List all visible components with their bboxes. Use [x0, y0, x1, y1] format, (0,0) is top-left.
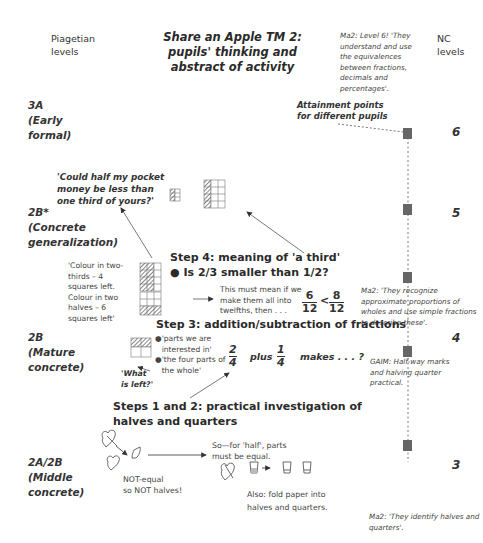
attainment-point [403, 128, 412, 139]
diagram-graphics [0, 0, 483, 543]
cup-icon-half-b [303, 462, 311, 473]
arrow-to-thirds-grid [247, 212, 304, 253]
apple-half-icon [107, 456, 119, 470]
arrow-to-question [121, 208, 152, 258]
thirds-grid-large [204, 180, 225, 208]
apple-piece-icon [132, 447, 140, 458]
arrow-to-what-left [138, 367, 150, 371]
apple-icon-right [221, 463, 234, 480]
arrow-apple-cut [116, 446, 127, 455]
attainment-pointer-line [338, 124, 404, 132]
attainment-point [403, 204, 412, 215]
halves-grid [140, 292, 161, 315]
cup-icon-half-a [283, 462, 291, 473]
attainment-point [403, 346, 412, 357]
third-grid-small [170, 189, 180, 201]
arrow-to-fractions [190, 373, 229, 398]
cup-icon-filled [250, 462, 258, 473]
two-thirds-grid [140, 263, 161, 291]
attainment-point [403, 272, 412, 283]
attainment-point [403, 440, 412, 451]
quarters-grid [131, 338, 151, 357]
apple-icon [102, 430, 117, 447]
